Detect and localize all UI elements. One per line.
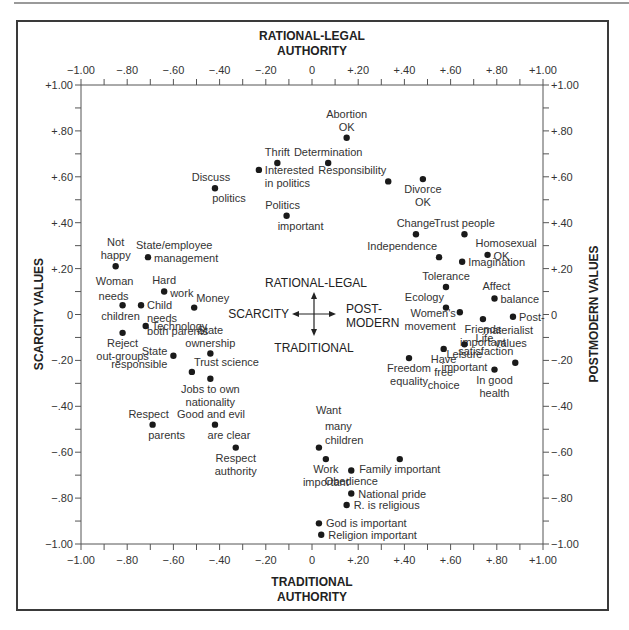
point-label: Hard [152,274,176,286]
bottom-x-tick-label: 0 [309,554,315,566]
left-y-tick-label: −.80 [51,492,73,504]
left-axis-title: SCARCITY VALUES [32,258,46,370]
point-label: work [169,287,194,299]
point-label: Work [313,463,339,475]
point-label: Affect [482,280,510,292]
point-label: OK [339,121,356,133]
right-y-tick-label: 0 [551,309,557,321]
point-label: movement [404,320,455,332]
left-y-tick-label: −.40 [51,400,73,412]
compass-right-label-2: MODERN [346,316,399,330]
point-label: Discuss [192,171,231,183]
point-label: in politics [265,177,311,189]
top-x-tick-label: −1.00 [67,64,95,76]
point-marker [316,520,322,526]
left-y-tick-label: −1.00 [45,538,73,550]
point-label: needs [99,290,129,302]
point-label: Jobs to own [181,383,240,395]
top-x-tick-label: +.60 [440,64,462,76]
point-marker [323,456,329,462]
left-y-tick-label: −.20 [51,354,73,366]
point-label: Trust science [194,356,259,368]
point-label: God is important [326,517,407,529]
point-label: Good and evil [177,408,245,420]
point-label: OK [494,250,511,262]
point-label: Divorce [404,183,441,195]
scatter-chart: RATIONAL-LEGAL AUTHORITY TRADITIONAL AUT… [0,0,629,630]
point-label: Interested [265,164,314,176]
point-marker [191,304,197,310]
point-label: Women's [411,307,457,319]
point-marker [212,421,218,427]
point-label: Obedience [325,475,378,487]
bottom-x-tick-label: +.20 [347,554,369,566]
bottom-x-tick-label: −1.00 [67,554,95,566]
data-point: Trust people [434,217,495,237]
data-point: Affectbalance [482,280,539,305]
point-label: Independence [367,240,437,252]
point-label: Reject [107,337,138,349]
point-label: Respect [128,408,168,420]
point-marker [142,323,148,329]
left-y-tick-label: +.40 [51,217,73,229]
point-marker [348,467,354,473]
data-point: AbortionOK [326,108,367,141]
top-axis-title-line-1: RATIONAL-LEGAL [259,29,365,43]
data-point: Politicsimportant [265,199,323,232]
bottom-x-tick-label: −.20 [255,554,277,566]
right-y-tick-label: +.40 [551,217,573,229]
top-x-tick-label: −.80 [116,64,138,76]
point-label: satisfaction [458,345,513,357]
point-marker [512,359,518,365]
data-point: Hardwork [152,274,194,299]
point-label: are clear [208,429,251,441]
point-label: Religion important [328,529,417,541]
left-y-tick-label: 0 [67,309,73,321]
data-point: Interestedin politics [256,164,314,189]
top-axis-title-line-2: AUTHORITY [277,44,347,58]
point-label: R. is religious [354,499,421,511]
point-marker [459,259,465,265]
data-point: Jobs to ownnationality [181,376,240,408]
point-label: Responsibility [318,164,386,176]
point-marker [112,263,118,269]
point-label: equality [390,375,428,387]
point-marker [119,330,125,336]
right-y-tick-label: +.20 [551,263,573,275]
point-label: health [479,387,509,399]
point-label: Respect [216,452,256,464]
point-label: choice [428,379,460,391]
left-y-tick-label: +1.00 [45,79,73,91]
left-y-tick-label: +.60 [51,171,73,183]
point-marker [491,366,497,372]
data-point: Good and evilare clear [177,408,251,441]
point-marker [510,314,516,320]
point-label: happy [101,249,131,261]
point-label: Family important [359,463,440,475]
bottom-x-tick-label: +.40 [394,554,416,566]
bottom-x-tick-label: −.60 [163,554,185,566]
top-x-tick-label: +.20 [347,64,369,76]
data-point: State/employeemanagement [136,239,218,264]
point-label: Change [397,217,436,229]
right-y-tick-label: −.40 [551,400,573,412]
bottom-x-tick-label: −.80 [116,554,138,566]
point-label: Determination [294,146,362,158]
top-x-tick-label: +1.00 [529,64,557,76]
point-label: State [142,345,168,357]
compass-up-arrow [311,292,317,299]
point-marker [480,316,486,322]
top-x-tick-label: 0 [309,64,315,76]
left-y-tick-label: +.20 [51,263,73,275]
point-label: Have [431,353,457,365]
data-point: Discusspolitics [192,171,247,204]
bottom-x-tick-label: −.40 [209,554,231,566]
point-label: In good [476,374,513,386]
point-label: politics [212,192,246,204]
top-x-tick-label: +.40 [394,64,416,76]
top-x-tick-label: −.20 [255,64,277,76]
point-label: Abortion [326,108,367,120]
point-label: Homosexual [476,237,537,249]
data-point: Nothappy [101,236,131,269]
data-point: Responsibility [318,164,391,184]
